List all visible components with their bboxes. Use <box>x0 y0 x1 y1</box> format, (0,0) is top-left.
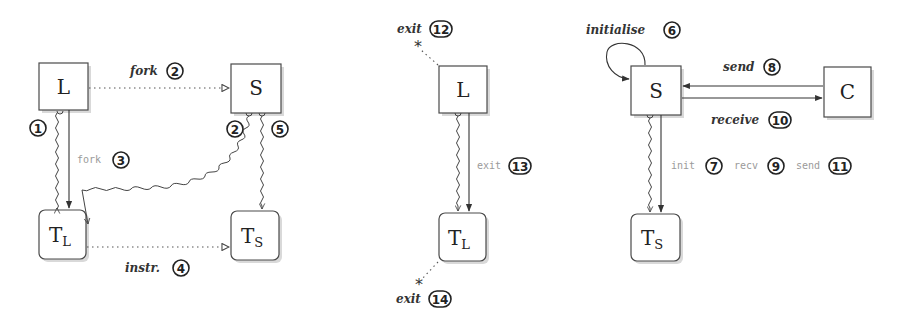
node-label: T <box>641 226 655 250</box>
edge-exit-mono-L-TL: exit 13 <box>469 113 531 211</box>
node-L: L <box>39 63 91 113</box>
step-number: 9 <box>772 160 780 174</box>
step-number: 6 <box>668 24 676 38</box>
node-label: L <box>456 78 469 102</box>
step-number: 13 <box>512 160 529 174</box>
step-number: 7 <box>710 160 718 174</box>
edge-label: instr. <box>125 261 160 275</box>
edge-label: receive <box>711 113 759 127</box>
node-TL: TL <box>39 210 89 262</box>
node-L: L <box>439 66 490 116</box>
node-label: T <box>49 223 63 247</box>
node-TS: TS <box>631 214 683 264</box>
step-number: 3 <box>117 154 125 168</box>
step-number: 14 <box>432 293 449 307</box>
step-number: 11 <box>832 160 849 174</box>
node-label: T <box>448 226 462 250</box>
step-number: 2 <box>231 123 239 137</box>
diagram-middle: L TL * exit 12 exit 13 <box>396 21 531 307</box>
edge-exit-L-top: * exit 12 <box>397 21 452 65</box>
step-number: 1 <box>34 122 42 136</box>
edge-label: fork <box>77 154 101 165</box>
node-S: S <box>631 66 684 118</box>
node-subscript: L <box>461 237 470 252</box>
edge-label: fork <box>129 64 158 78</box>
node-subscript: S <box>654 237 663 252</box>
step-number: 10 <box>772 114 789 128</box>
edge-fork-L-S: fork 2 <box>89 63 229 88</box>
node-subscript: L <box>62 234 71 249</box>
edge-exit-TL-bottom: * exit 14 <box>396 262 451 307</box>
terminal-star-icon: * <box>414 37 422 56</box>
edge-wavy-L-TL <box>455 113 461 211</box>
diagram-left: L S TL TS fork 2 <box>30 63 288 276</box>
node-label: T <box>241 224 255 248</box>
edge-receive-S-C: receive 10 <box>682 98 822 128</box>
edge-wavy-S-TS: 5 <box>259 113 288 209</box>
step-number: 4 <box>177 262 185 276</box>
node-label: C <box>840 80 855 104</box>
step-number: 12 <box>433 23 450 37</box>
edge-send-C-S: send 8 <box>683 59 823 86</box>
edge-label: init <box>671 160 695 171</box>
node-S: S <box>231 64 284 116</box>
edge-label: exit <box>397 22 422 36</box>
edge-mono-S-TS: init 7 recv 9 send 11 <box>661 115 851 212</box>
edge-label: recv <box>734 160 758 171</box>
edge-label: exit <box>477 160 501 171</box>
node-TS: TS <box>231 211 282 263</box>
node-label: L <box>57 75 70 99</box>
diagram-canvas: L S TL TS fork 2 <box>0 0 901 323</box>
edge-wavy-S-TL: 2 <box>82 113 252 224</box>
edge-instr-TL-TS: instr. 4 <box>87 247 229 276</box>
edge-fork-mono-L-TL: fork 3 <box>69 110 129 208</box>
step-number: 8 <box>768 61 776 75</box>
edge-label: exit <box>396 292 421 306</box>
edge-label: send <box>796 160 820 171</box>
node-TL: TL <box>439 213 489 264</box>
node-C: C <box>824 67 874 120</box>
step-number: 2 <box>171 65 179 79</box>
node-label: S <box>649 79 663 103</box>
edge-wavy-S-TS <box>647 115 653 212</box>
diagram-right: S C TS initialise 6 send 8 <box>586 22 874 264</box>
edge-wavy-L-TL: 1 <box>30 111 63 209</box>
edge-label: initialise <box>586 23 646 37</box>
node-subscript: S <box>254 235 263 250</box>
node-label: S <box>249 76 263 100</box>
edge-label: send <box>723 60 755 74</box>
step-number: 5 <box>276 123 284 137</box>
